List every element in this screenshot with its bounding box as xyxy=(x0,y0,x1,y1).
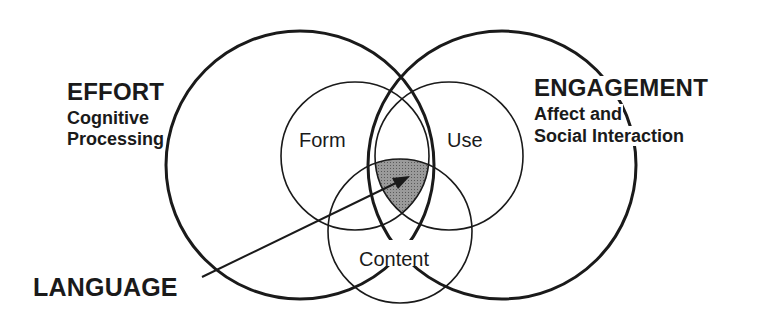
form-label: Form xyxy=(299,129,346,152)
effort-subtitle-line1: Cognitive xyxy=(66,108,150,128)
form-circle xyxy=(281,82,429,230)
language-venn-diagram: EFFORT Cognitive Processing ENGAGEMENT A… xyxy=(0,0,771,324)
content-label: Content xyxy=(359,248,429,271)
effort-title: EFFORT xyxy=(66,80,165,104)
engagement-subtitle-line2: Social Interaction xyxy=(533,126,685,146)
use-circle xyxy=(375,82,523,230)
language-label: LANGUAGE xyxy=(33,275,178,299)
engagement-title: ENGAGEMENT xyxy=(533,76,709,100)
engagement-subtitle-line1: Affect and xyxy=(533,104,623,124)
effort-subtitle-line2: Processing xyxy=(66,129,165,149)
use-label: Use xyxy=(447,129,483,152)
